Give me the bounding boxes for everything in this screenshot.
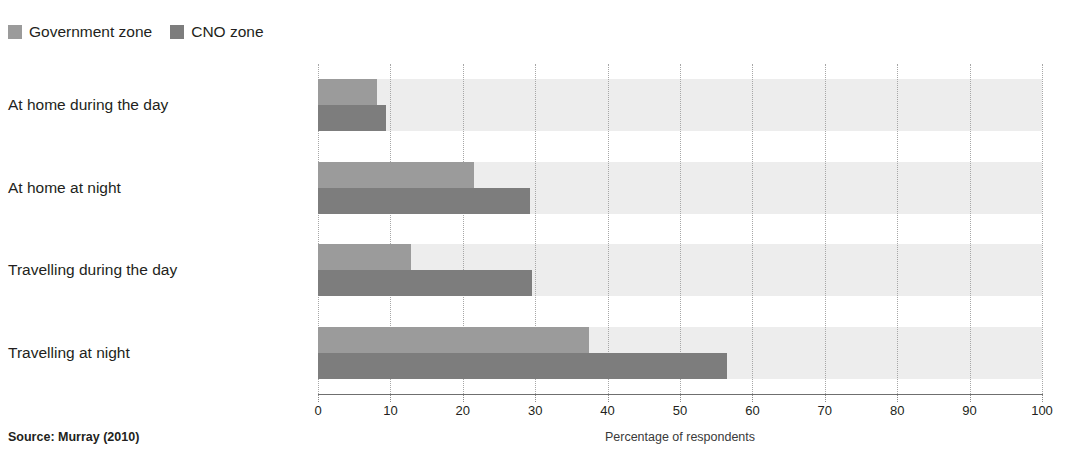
x-axis-tick-label: 50 [673,403,687,418]
x-axis-tick [1042,395,1043,402]
legend-item-cno-zone[interactable]: CNO zone [170,24,263,40]
y-axis-label: Travelling during the day [8,261,177,279]
bar-cno-zone[interactable] [318,353,727,379]
gridline [1042,64,1043,394]
y-axis-label: At home during the day [8,96,168,114]
legend-swatch-icon-government-zone [8,25,22,39]
x-axis-tick [535,395,536,402]
x-axis-tick-label: 100 [1031,403,1053,418]
x-axis-tick [897,395,898,402]
x-axis-tick-label: 10 [383,403,397,418]
x-axis-tick-label: 40 [600,403,614,418]
chart-legend: Government zone CNO zone [8,22,264,42]
x-axis-tick [318,395,319,402]
bar-government-zone[interactable] [318,327,589,353]
legend-swatch-icon-cno-zone [170,25,184,39]
bar-cno-zone[interactable] [318,105,386,131]
x-axis-tick-label: 90 [962,403,976,418]
x-axis-tick [608,395,609,402]
legend-label-government-zone: Government zone [29,24,152,40]
x-axis-tick [390,395,391,402]
chart-figure: Government zone CNO zone At home during … [0,0,1068,454]
y-axis-label: Travelling at night [8,344,130,362]
x-axis-tick-label: 0 [314,403,321,418]
bar-cno-zone[interactable] [318,188,530,214]
chart-source-note: Source: Murray (2010) [8,430,139,444]
y-axis-label: At home at night [8,179,121,197]
bar-government-zone[interactable] [318,162,474,188]
plot-area [318,64,1042,394]
x-axis-tick-label: 60 [745,403,759,418]
bar-government-zone[interactable] [318,244,411,270]
x-axis-tick-label: 70 [818,403,832,418]
gridline [608,64,609,394]
gridline [825,64,826,394]
gridline [897,64,898,394]
x-axis-title: Percentage of respondents [318,430,1042,444]
x-axis-tick [752,395,753,402]
x-axis-tick-label: 80 [890,403,904,418]
x-axis-tick-label: 30 [528,403,542,418]
legend-label-cno-zone: CNO zone [191,24,263,40]
x-axis-tick [970,395,971,402]
legend-item-government-zone[interactable]: Government zone [8,24,152,40]
x-axis-tick [680,395,681,402]
x-axis-tick [825,395,826,402]
gridline [970,64,971,394]
gridline [752,64,753,394]
x-axis-tick-label: 20 [456,403,470,418]
bar-cno-zone[interactable] [318,270,532,296]
bar-government-zone[interactable] [318,79,377,105]
gridline [680,64,681,394]
x-axis-tick [463,395,464,402]
